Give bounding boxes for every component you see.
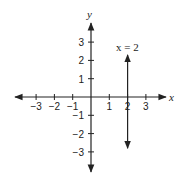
y-tick-label: 3 [78, 37, 84, 48]
coordinate-plane: x y −3−2−1123 321−1−2−3 x = 2 [0, 0, 182, 185]
line-equation-label: x = 2 [116, 41, 139, 53]
x-tick-label: 3 [143, 101, 149, 112]
y-tick-label: 2 [78, 55, 84, 66]
y-tick-label: 1 [78, 74, 84, 85]
y-tick-label: −1 [73, 110, 85, 121]
x-axis-label: x [168, 91, 174, 103]
y-tick-label: −2 [73, 129, 85, 140]
y-axis-label: y [86, 8, 92, 20]
x-tick-label: −3 [30, 101, 42, 112]
x-tick-label: 1 [107, 101, 113, 112]
x-tick-label: −2 [49, 101, 61, 112]
y-tick-label: −3 [73, 147, 85, 158]
